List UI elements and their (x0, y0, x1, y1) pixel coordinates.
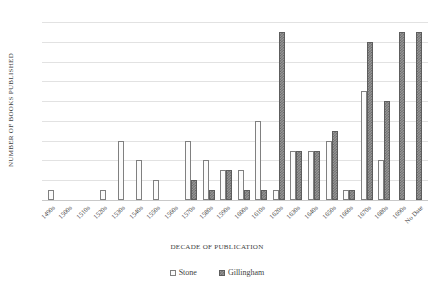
bar-gillingham-1690s (399, 32, 405, 200)
bar-gillingham-1600s (244, 190, 250, 200)
legend-swatch-icon (170, 270, 176, 276)
bar-chart: NUMBER OF BOOKS PUBLISHED 02468101214161… (0, 0, 434, 291)
bar-group (288, 22, 306, 200)
x-tick-label: 1670s (355, 204, 371, 220)
x-tick-cell: 1540s (130, 202, 148, 246)
x-tick-label: 1680s (373, 204, 389, 220)
legend-label: Gillingham (228, 268, 264, 277)
x-tick-label: 1570s (180, 204, 196, 220)
x-tick-cell: No Date (410, 202, 428, 246)
bar-gillingham-1570s (191, 180, 197, 200)
x-tick-cell: 1570s (182, 202, 200, 246)
x-tick-label: 1610s (250, 204, 266, 220)
bar-stone-1520s (100, 190, 106, 200)
bar-group (130, 22, 148, 200)
bar-group (217, 22, 235, 200)
x-tick-cell: 1580s (200, 202, 218, 246)
bar-group (182, 22, 200, 200)
x-tick-cell: 1640s (305, 202, 323, 246)
x-tick-label: 1650s (320, 204, 336, 220)
bar-group (270, 22, 288, 200)
bar-group (235, 22, 253, 200)
bar-group (358, 22, 376, 200)
bar-group (340, 22, 358, 200)
bar-gillingham-1680s (384, 101, 390, 200)
x-tick-cell: 1560s (165, 202, 183, 246)
x-tick-cell: 1510s (77, 202, 95, 246)
bar-stone-1490s (48, 190, 54, 200)
x-tick-cell: 1620s (270, 202, 288, 246)
x-tick-cell: 1590s (217, 202, 235, 246)
x-tick-label: 1490s (40, 204, 56, 220)
bar-group (42, 22, 60, 200)
x-tick-label: 1580s (198, 204, 214, 220)
x-tick-label: 1600s (233, 204, 249, 220)
bar-gillingham-1580s (209, 190, 215, 200)
x-tick-cell: 1490s (42, 202, 60, 246)
bar-group (60, 22, 78, 200)
legend-item-stone[interactable]: Stone (170, 268, 197, 277)
x-axis-tick-labels: 1490s1500s1510s1520s1530s1540s1550s1560s… (42, 202, 428, 246)
x-tick-cell: 1550s (147, 202, 165, 246)
x-tick-cell: 1680s (375, 202, 393, 246)
bar-gillingham-1650s (332, 131, 338, 200)
x-tick-cell: 1630s (288, 202, 306, 246)
x-tick-label: 1550s (145, 204, 161, 220)
chart-legend: StoneGillingham (0, 268, 434, 277)
bar-group (410, 22, 428, 200)
bar-gillingham-1630s (296, 151, 302, 200)
x-tick-cell: 1670s (358, 202, 376, 246)
bar-group (305, 22, 323, 200)
bar-gillingham-no-date (416, 32, 422, 200)
bar-group (112, 22, 130, 200)
x-tick-label: 1590s (215, 204, 231, 220)
bar-stone-1550s (153, 180, 159, 200)
gridline-0 (42, 200, 428, 201)
x-tick-label: 1530s (110, 204, 126, 220)
bar-group (147, 22, 165, 200)
legend-swatch-icon (219, 270, 225, 276)
x-axis-title: DECADE OF PUBLICATION (0, 243, 434, 251)
y-axis-title: NUMBER OF BOOKS PUBLISHED (7, 15, 15, 205)
x-tick-label: 1630s (285, 204, 301, 220)
bar-stone-1610s (255, 121, 261, 200)
bar-group (95, 22, 113, 200)
bar-group (253, 22, 271, 200)
x-tick-label: 1560s (162, 204, 178, 220)
plot-area: 024681012141618 (42, 22, 428, 200)
x-tick-label: 1500s (57, 204, 73, 220)
x-tick-label: 1510s (75, 204, 91, 220)
bar-gillingham-1620s (279, 32, 285, 200)
x-tick-cell: 1520s (95, 202, 113, 246)
bar-gillingham-1610s (261, 190, 267, 200)
bar-gillingham-1670s (367, 42, 373, 200)
bar-group (323, 22, 341, 200)
bar-group (77, 22, 95, 200)
bar-gillingham-1640s (314, 151, 320, 200)
x-tick-cell: 1530s (112, 202, 130, 246)
x-tick-cell: 1600s (235, 202, 253, 246)
x-tick-label: 1660s (338, 204, 354, 220)
bar-group (375, 22, 393, 200)
bar-stone-1530s (118, 141, 124, 200)
x-tick-cell: 1500s (60, 202, 78, 246)
bar-group (200, 22, 218, 200)
x-tick-label: 1640s (303, 204, 319, 220)
bar-series-container (42, 22, 428, 200)
bar-gillingham-1590s (226, 170, 232, 200)
bar-gillingham-1660s (349, 190, 355, 200)
x-tick-label: 1540s (127, 204, 143, 220)
bar-group (393, 22, 411, 200)
x-tick-label: 1620s (268, 204, 284, 220)
x-tick-cell: 1660s (340, 202, 358, 246)
x-tick-label: 1520s (92, 204, 108, 220)
bar-group (165, 22, 183, 200)
legend-item-gillingham[interactable]: Gillingham (219, 268, 264, 277)
bar-stone-1540s (136, 160, 142, 200)
x-tick-cell: 1650s (323, 202, 341, 246)
x-tick-cell: 1610s (253, 202, 271, 246)
legend-label: Stone (179, 268, 197, 277)
